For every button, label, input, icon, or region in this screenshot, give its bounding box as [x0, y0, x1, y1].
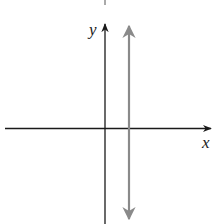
coordinate-plane: y x — [0, 0, 213, 224]
y-axis-label: y — [87, 20, 97, 39]
x-axis-label: x — [201, 133, 210, 152]
